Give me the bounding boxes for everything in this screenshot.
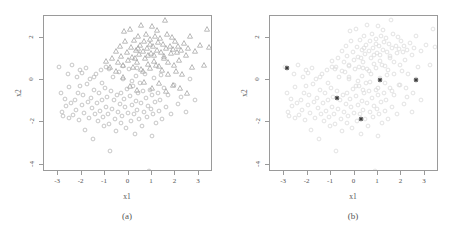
y-tick-label: 0: [254, 78, 261, 82]
data-point-circle: [304, 68, 309, 73]
data-point-triangle: [185, 45, 191, 51]
data-point-circle: [62, 96, 67, 101]
x-tick: [330, 171, 331, 175]
figure-container: -3-2-1012320-2-4 x1 x2 (a) -3-2-1012320-…: [0, 0, 452, 234]
data-point-circle: [123, 105, 128, 110]
x-tick: [104, 171, 105, 175]
data-point-circle: [343, 44, 348, 49]
data-point-circle: [361, 87, 366, 92]
data-point-triangle: [197, 42, 203, 48]
data-point-circle: [110, 107, 115, 112]
data-point-circle: [111, 74, 116, 79]
data-point-circle: [77, 118, 82, 123]
data-point-circle: [310, 66, 315, 71]
data-point-circle: [188, 77, 193, 82]
data-point-circle: [159, 73, 164, 78]
data-point-circle: [364, 23, 369, 28]
data-point-circle: [78, 83, 83, 88]
data-point-circle: [126, 110, 131, 115]
data-point-circle: [301, 91, 306, 96]
data-point-triangle: [206, 44, 211, 50]
data-point-circle: [323, 108, 328, 113]
data-point-circle: [327, 124, 332, 129]
panel-a: -3-2-1012320-2-4 x1 x2 (a): [0, 0, 226, 234]
data-point-circle: [58, 90, 63, 95]
data-point-circle: [164, 104, 169, 109]
data-point-circle: [385, 68, 390, 73]
data-point-triangle: [162, 17, 168, 23]
data-point-circle: [309, 127, 314, 132]
data-point-circle: [65, 72, 70, 77]
data-point-circle: [369, 96, 374, 101]
data-point-circle: [330, 58, 335, 63]
data-point-circle: [146, 168, 151, 170]
data-point-circle: [84, 66, 89, 71]
data-point-triangle: [145, 52, 151, 58]
data-point-circle: [328, 85, 333, 90]
data-point-circle: [410, 91, 415, 96]
data-point-circle: [128, 119, 133, 124]
data-point-circle: [89, 96, 94, 101]
data-point-circle: [405, 94, 410, 99]
data-point-circle: [341, 60, 346, 65]
data-point-circle: [326, 114, 331, 119]
y-tick-label: 0: [28, 78, 35, 82]
x-tick-label: 1: [149, 178, 153, 185]
data-point-triangle: [127, 26, 133, 32]
data-point-circle: [286, 114, 291, 119]
data-point-circle: [361, 108, 366, 113]
data-point-circle: [366, 123, 371, 128]
data-point-circle: [85, 82, 90, 87]
data-point-circle: [380, 63, 385, 68]
y-tick: [39, 79, 43, 80]
data-point-triangle: [135, 45, 141, 51]
data-point-circle: [154, 120, 159, 125]
x-tick: [424, 171, 425, 175]
y-tick-label: -2: [29, 119, 36, 125]
data-point-circle: [160, 117, 165, 122]
y-tick-label: -2: [255, 119, 262, 125]
data-point-circle: [350, 125, 355, 130]
data-point-circle: [357, 64, 362, 69]
data-point-asterisk: [334, 96, 339, 101]
data-point-triangle: [121, 28, 127, 34]
data-point-triangle: [120, 74, 126, 80]
data-point-circle: [333, 121, 338, 126]
data-point-circle: [377, 52, 382, 57]
data-point-circle: [415, 65, 420, 70]
data-point-triangle: [107, 64, 113, 70]
data-point-circle: [120, 113, 125, 118]
data-point-circle: [296, 63, 301, 68]
data-point-circle: [354, 84, 359, 89]
data-point-circle: [113, 129, 118, 134]
data-point-circle: [111, 98, 116, 103]
data-point-circle: [90, 106, 95, 111]
data-point-circle: [184, 109, 189, 114]
data-point-triangle: [154, 27, 160, 33]
x-tick: [354, 171, 355, 175]
y-tick: [39, 164, 43, 165]
data-point-circle: [304, 83, 309, 88]
x-tick: [198, 171, 199, 175]
panel-b: -3-2-1012320-2-4 x1 x2 (b): [226, 0, 452, 234]
data-point-asterisk: [413, 78, 418, 83]
data-point-circle: [344, 120, 349, 125]
data-point-circle: [109, 89, 114, 94]
data-point-triangle: [156, 80, 162, 86]
data-point-circle: [140, 123, 145, 128]
x-tick: [400, 171, 401, 175]
data-point-circle: [431, 26, 436, 31]
data-point-circle: [371, 53, 376, 58]
data-point-circle: [338, 117, 343, 122]
data-point-triangle: [177, 85, 183, 91]
data-point-circle: [388, 54, 393, 59]
data-point-circle: [92, 74, 97, 79]
data-point-circle: [300, 75, 305, 80]
data-point-circle: [399, 38, 404, 43]
y-tick-label: 2: [28, 35, 35, 39]
data-point-circle: [377, 112, 382, 117]
data-point-circle: [370, 114, 375, 119]
data-point-circle: [284, 90, 289, 95]
data-point-circle: [398, 63, 403, 68]
data-point-circle: [389, 89, 394, 94]
